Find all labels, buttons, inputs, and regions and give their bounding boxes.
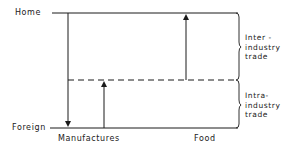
intra-industry-brace [236,80,241,128]
home-label: Home [15,9,41,17]
intra-industry-trade-label: Intra- industry trade [245,91,281,120]
manufactures-label: Manufactures [58,135,120,143]
inter-industry-trade-label: Inter - industry trade [245,33,281,62]
food-label: Food [194,135,216,143]
inter-industry-brace [236,13,241,80]
foreign-label: Foreign [12,124,46,132]
